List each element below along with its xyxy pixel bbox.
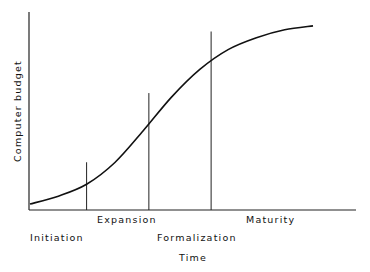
y-axis-label: Computer budget <box>12 60 23 162</box>
stage-dividers <box>87 32 212 211</box>
budget-curve <box>30 26 313 204</box>
stage-label-formalization: Formalization <box>157 232 237 243</box>
stage-label-initiation: Initiation <box>30 232 84 243</box>
stage-label-expansion: Expansion <box>97 214 157 225</box>
stage-growth-diagram: Computer budget Expansion Maturity Initi… <box>0 0 370 272</box>
stage-label-maturity: Maturity <box>246 214 295 225</box>
x-axis-label: Time <box>178 252 207 263</box>
